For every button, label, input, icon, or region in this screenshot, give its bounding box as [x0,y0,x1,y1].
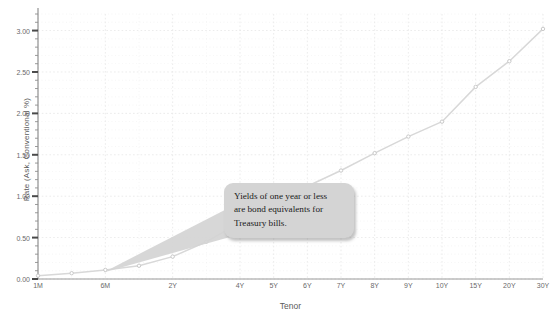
y-axis-ticks [32,14,38,279]
data-point-marker [137,264,140,267]
callout-line: Yields of one year or less [234,190,345,203]
data-point-marker [36,274,39,277]
gridlines [38,14,543,279]
yield-curve-chart: Rate (Ask, Conventional %) 0.000.501.001… [0,0,551,319]
data-point-marker [407,135,410,138]
data-point-marker [541,27,544,30]
x-axis-title: Tenor [38,301,543,311]
callout-annotation: Yields of one year or lessare bond equiv… [224,183,354,238]
callout-line: are bond equivalents for [234,203,345,216]
data-point-marker [373,151,376,154]
data-series-line [38,29,543,276]
data-point-marker [508,60,511,63]
callout-line: Treasury bills. [234,217,345,230]
data-point-marker [171,255,174,258]
data-point-markers [36,27,544,277]
plot-area [0,0,551,319]
data-point-marker [339,169,342,172]
data-point-marker [474,85,477,88]
data-point-marker [440,120,443,123]
data-point-marker [70,272,73,275]
